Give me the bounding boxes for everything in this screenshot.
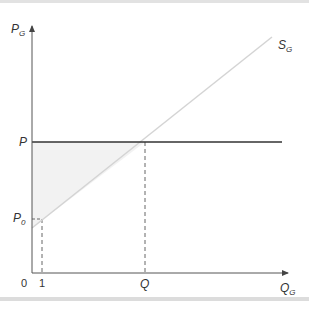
x-axis-label: QG [280,281,296,297]
supply-curve-label: SG [278,38,292,54]
surplus-diagram: PG QG SG P P0 0 1 Q [0,0,309,311]
bottom-border-rule [0,297,309,301]
price-label: P [19,135,27,149]
origin-label: 0 [21,277,27,289]
equilibrium-quantity-label: Q [140,277,149,291]
supply-curve [32,37,272,228]
y-axis-label: PG [11,22,25,38]
quantity-1-label: 1 [39,277,45,289]
reservation-price-label: P0 [13,211,26,227]
